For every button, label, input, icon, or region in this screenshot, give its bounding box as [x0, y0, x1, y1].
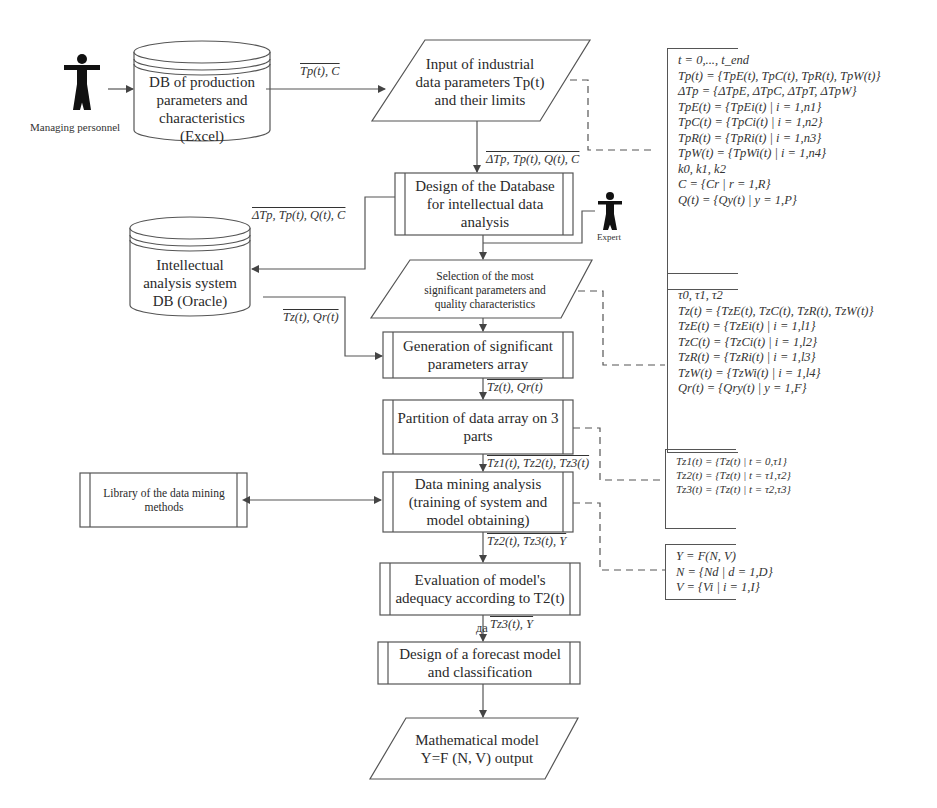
- formula-line: TpC(t) = {TpCi(t) | i = 1,n2}: [678, 115, 738, 131]
- edge-label-partition-to-mining: Tz1(t), Tz2(t), Tz3(t): [487, 456, 589, 471]
- data-mining-node[interactable]: Data mining analysis (training of system…: [397, 472, 559, 532]
- formula-line: τ0, τ1, τ2: [678, 288, 738, 304]
- edge-label-ias-to-generation: Tz(t), Qr(t): [283, 310, 339, 325]
- formula-line: Tz1(t) = {Tz(t) | t = 0,τ1}: [676, 454, 736, 468]
- formula-line: TzC(t) = {TzCi(t) | i = 1,l2}: [678, 335, 738, 351]
- formula-line: Y = F(N, V): [676, 549, 736, 565]
- edge-label-input-to-design: ΔTp, Tp(t), Q(t), C: [486, 152, 579, 167]
- ias-db-node[interactable]: Intellectual analysis system DB (Oracle): [132, 248, 248, 318]
- evaluation-node[interactable]: Evaluation of model's adequacy according…: [394, 561, 566, 617]
- expert-icon: [598, 192, 622, 230]
- formula-line: k0, k1, k2: [678, 162, 738, 178]
- formula-box-partition: Tz1(t) = {Tz(t) | t = 0,τ1} Tz2(t) = {Tz…: [665, 449, 736, 529]
- forecast-node[interactable]: Design of a forecast model and classific…: [392, 642, 568, 684]
- edge-label-generation-to-partition: Tz(t), Qr(t): [487, 380, 543, 395]
- db-production-node[interactable]: DB of production parameters and characte…: [138, 70, 266, 148]
- formula-line: TpE(t) = {TpEi(t) | i = 1,n1}: [678, 100, 738, 116]
- formula-box-input: t = 0,..., t_end Tp(t) = {TpE(t), TpC(t)…: [667, 48, 738, 290]
- formula-line: C = {Cr | r = 1,R}: [678, 177, 738, 193]
- formula-box-selection: τ0, τ1, τ2 Tz(t) = {TzE(t), TzC(t), TzR(…: [667, 273, 738, 453]
- edge-label-db-to-input: Tp(t), C: [300, 64, 340, 79]
- formula-line: TzR(t) = {TzRi(t) | i = 1,l3}: [678, 350, 738, 366]
- edge-label-evaluation-to-forecast: Tz3(t), Y: [490, 617, 533, 632]
- formula-line: TzW(t) = {TzWi(t) | i = 1,l4}: [678, 366, 738, 382]
- formula-line: V = {Vi | i = 1,I}: [676, 580, 736, 596]
- design-db-node[interactable]: Design of the Database for intellectual …: [410, 173, 560, 235]
- selection-node[interactable]: Selection of the most significant parame…: [415, 260, 555, 320]
- edge-label-evaluation-small: да: [476, 622, 488, 634]
- formula-line: ΔTp = {ΔTpE, ΔTpC, ΔTpT, ΔTpW}: [678, 84, 738, 100]
- formula-line: TpR(t) = {TpRi(t) | i = 1,n3}: [678, 131, 738, 147]
- formula-line: TzE(t) = {TzEi(t) | i = 1,l1}: [678, 319, 738, 335]
- edge-label-mining-to-evaluation: Tz2(t), Tz3(t), Y: [487, 534, 566, 549]
- formula-line: Qr(t) = {Qry(t) | y = 1,F}: [678, 381, 738, 397]
- formula-line: Tz2(t) = {Tz(t) | t = τ1,τ2}: [676, 468, 736, 482]
- partition-node[interactable]: Partition of data array on 3 parts: [397, 400, 559, 454]
- expert-label: Expert: [597, 232, 621, 242]
- formula-line: t = 0,..., t_end: [678, 53, 738, 69]
- managing-personnel-icon: [64, 54, 100, 110]
- formula-line: Q(t) = {Qy(t) | y = 1,P}: [678, 193, 738, 209]
- formula-line: Tp(t) = {TpE(t), TpC(t), TpR(t), TpW(t)}: [678, 69, 738, 85]
- formula-line: Tz(t) = {TzE(t), TzC(t), TzR(t), TzW(t)}: [678, 304, 738, 320]
- input-params-node[interactable]: Input of industrial data parameters Tp(t…: [415, 40, 545, 124]
- generation-node[interactable]: Generation of significant parameters arr…: [397, 332, 559, 378]
- library-node[interactable]: Library of the data mining methods: [94, 473, 234, 527]
- managing-personnel-label: Managing personnel: [30, 121, 120, 133]
- output-node[interactable]: Mathematical model Y=F (N, V) output: [412, 718, 542, 780]
- formula-line: N = {Nd | d = 1,D}: [676, 565, 736, 581]
- formula-line: TpW(t) = {TpWi(t) | i = 1,n4}: [678, 146, 738, 162]
- formula-line: Tz3(t) = {Tz(t) | t = τ2,τ3}: [676, 482, 736, 496]
- formula-box-model: Y = F(N, V) N = {Nd | d = 1,D} V = {Vi |…: [665, 544, 736, 600]
- edge-label-design-to-ias: ΔTp, Tp(t), Q(t), C: [252, 208, 345, 223]
